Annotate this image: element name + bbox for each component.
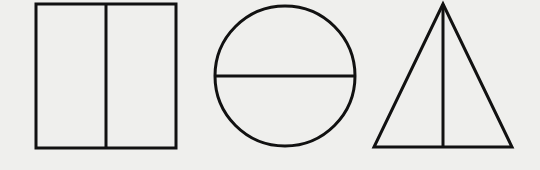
rectangle-shape: [36, 4, 176, 148]
circle-shape: [215, 6, 355, 146]
triangle-shape: [374, 4, 512, 147]
shapes-figure: [0, 0, 540, 170]
